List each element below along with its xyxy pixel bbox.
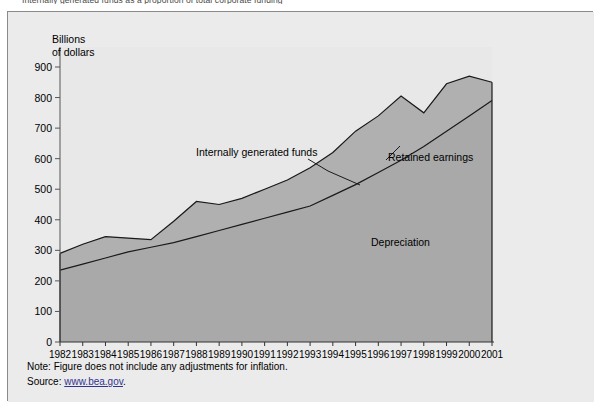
x-axis-tick-label: 1984 [94,349,116,360]
y-axis-title: Billionsof dollars [52,33,95,58]
y-axis-title-line2: of dollars [52,46,95,58]
source-period: . [123,376,126,387]
x-axis-tick-label: 1985 [117,349,139,360]
y-axis-tick-label: 800 [18,92,52,104]
x-axis-tick-label: 1982 [49,349,71,360]
note-row: Note: Figure does not include any adjust… [27,361,288,372]
chart-plot-area: Billionsof dollars 010020030040050060070… [8,12,594,402]
top-caption: Internally generated funds as a proporti… [22,0,582,4]
y-axis-tick-label: 200 [18,275,52,287]
annotation-internally-generated-funds: Internally generated funds [196,146,317,158]
note-text: Figure does not include any adjustments … [54,361,288,372]
x-axis-tick-label: 1989 [208,349,230,360]
y-axis-tick-label: 100 [18,305,52,317]
y-axis-tick-label: 0 [18,336,52,348]
x-axis-tick-label: 1995 [344,349,366,360]
annotation-depreciation: Depreciation [371,236,430,248]
x-axis-tick-label: 1997 [390,349,412,360]
source-link[interactable]: www.bea.gov [64,376,123,387]
chart-areas [60,47,492,342]
y-axis-tick-label: 500 [18,183,52,195]
chart-svg [8,12,594,402]
figure-frame: Billionsof dollars 010020030040050060070… [7,11,593,401]
x-axis-tick-label: 2000 [458,349,480,360]
x-axis-tick-label: 1986 [140,349,162,360]
x-axis-tick-label: 1991 [254,349,276,360]
x-axis-tick-label: 1998 [413,349,435,360]
x-axis-tick-label: 1987 [163,349,185,360]
x-axis-tick-label: 1992 [276,349,298,360]
annotation-retained-earnings: Retained earnings [388,151,473,163]
x-axis-tick-label: 1994 [322,349,344,360]
y-axis-tick-label: 400 [18,214,52,226]
y-axis-tick-label: 600 [18,153,52,165]
y-axis-tick-label: 700 [18,122,52,134]
screenshot-page: Internally generated funds as a proporti… [0,0,602,412]
x-axis-tick-label: 1988 [185,349,207,360]
y-axis-tick-label: 900 [18,61,52,73]
source-row: Source: www.bea.gov. [27,376,126,387]
source-label: Source: [27,376,61,387]
x-axis-tick-label: 1996 [367,349,389,360]
y-axis-tick-label: 300 [18,244,52,256]
x-axis-tick-label: 1990 [231,349,253,360]
note-label: Note: [27,361,51,372]
y-axis-title-line1: Billions [52,33,85,45]
x-axis-tick-label: 1993 [299,349,321,360]
x-axis-tick-label: 2001 [481,349,503,360]
x-axis-tick-label: 1999 [435,349,457,360]
x-axis-tick-label: 1983 [72,349,94,360]
